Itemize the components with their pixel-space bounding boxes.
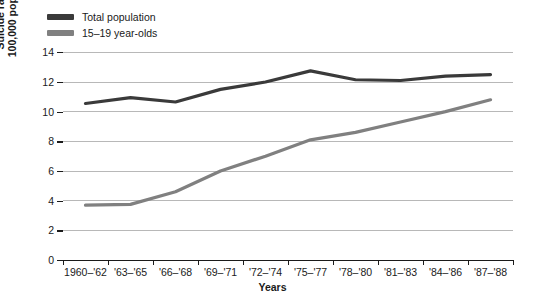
y-axis-tick — [57, 141, 63, 142]
legend-label-teens: 15–19 year-olds — [82, 28, 157, 39]
y-axis-tick-label: 14 — [32, 46, 54, 58]
y-axis-tick-label: 0 — [32, 254, 54, 266]
y-axis-title: Suicide rate per 100,000 population — [0, 0, 18, 90]
y-axis-tick-label: 4 — [32, 195, 54, 207]
legend-label-total-population: Total population — [82, 12, 156, 23]
x-axis-tick — [333, 260, 334, 265]
legend-item-total-population: Total population — [47, 10, 157, 24]
legend-swatch-total-population — [47, 14, 74, 20]
legend-item-teens: 15–19 year-olds — [47, 26, 157, 40]
y-axis-tick — [57, 171, 63, 172]
x-axis-tick — [468, 260, 469, 265]
y-axis-tick — [57, 230, 63, 231]
x-axis-tick — [108, 260, 109, 265]
y-axis-tick — [57, 201, 63, 202]
gridline — [63, 171, 513, 172]
y-axis-tick — [57, 82, 63, 83]
y-axis-tick-label: 6 — [32, 165, 54, 177]
y-axis-tick — [57, 52, 63, 53]
y-axis-tick-label: 10 — [32, 106, 54, 118]
gridline — [63, 230, 513, 231]
plot-area — [63, 52, 513, 260]
x-axis-tick — [513, 260, 514, 265]
gridline — [63, 82, 513, 83]
x-axis-title: Years — [0, 281, 545, 293]
x-axis-tick — [288, 260, 289, 265]
legend-swatch-teens — [47, 30, 74, 36]
x-axis-tick — [378, 260, 379, 265]
chart-legend: Total population 15–19 year-olds — [47, 10, 157, 42]
x-axis-tick — [153, 260, 154, 265]
y-axis-tick-label: 2 — [32, 224, 54, 236]
x-axis-tick — [423, 260, 424, 265]
x-axis-tick — [63, 260, 64, 265]
y-axis-tick-label: 12 — [32, 76, 54, 88]
x-axis-tick-label: '87–'88 — [456, 266, 526, 278]
gridline — [63, 200, 513, 201]
gridline — [63, 52, 513, 53]
chart-figure: Total population 15–19 year-olds Suicide… — [0, 0, 545, 298]
y-axis-tick — [57, 112, 63, 113]
y-axis-title-line2: 100,000 population — [6, 0, 18, 90]
gridline — [63, 111, 513, 112]
gridline — [63, 141, 513, 142]
y-axis-tick-label: 8 — [32, 135, 54, 147]
x-axis-tick — [198, 260, 199, 265]
x-axis-tick — [243, 260, 244, 265]
